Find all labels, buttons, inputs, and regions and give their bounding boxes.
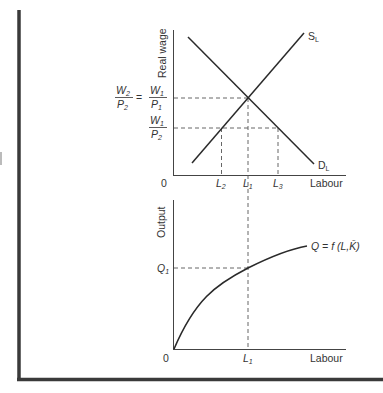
edge-mark (0, 152, 2, 165)
l1-tick-bottom: L1 (243, 352, 253, 365)
production-function-chart: Output Q1 Q = f (L,K̄) 0 L1 Labour (155, 200, 360, 365)
svg-text:P1: P1 (151, 98, 162, 111)
labour-axis-label-bottom: Labour (310, 352, 343, 364)
low-wage-tick: W1 P2 (149, 114, 167, 141)
guide-lines-top (174, 98, 278, 349)
labour-market-chart: SL DL Real wage W2 P2 = W1 P1 W1 P2 0 L2… (115, 28, 346, 349)
svg-text:=: = (136, 91, 142, 103)
output-axis-label: Output (155, 206, 167, 238)
production-function-label: Q = f (L,K̄) (311, 240, 360, 252)
svg-text:W1: W1 (150, 84, 164, 97)
l3-tick: L3 (273, 177, 283, 190)
labour-axis-label-top: Labour (310, 177, 343, 189)
origin-label-bottom: 0 (163, 352, 169, 364)
real-wage-axis-label: Real wage (156, 28, 168, 78)
demand-curve-label: DL (318, 159, 330, 172)
q1-tick: Q1 (157, 262, 169, 275)
svg-text:P2: P2 (117, 98, 128, 111)
l2-tick: L2 (216, 177, 226, 190)
supply-curve-label: SL (308, 30, 319, 43)
labour-market-diagram: SL DL Real wage W2 P2 = W1 P1 W1 P2 0 L2… (0, 0, 383, 393)
l1-tick-top: L1 (243, 177, 253, 190)
svg-text:P2: P2 (151, 128, 162, 141)
svg-text:W1: W1 (150, 114, 164, 127)
production-function-curve (174, 246, 307, 349)
origin-label-top: 0 (161, 177, 167, 189)
equilibrium-wage-tick: W2 P2 = W1 P1 (115, 84, 167, 111)
svg-text:W2: W2 (116, 84, 130, 97)
